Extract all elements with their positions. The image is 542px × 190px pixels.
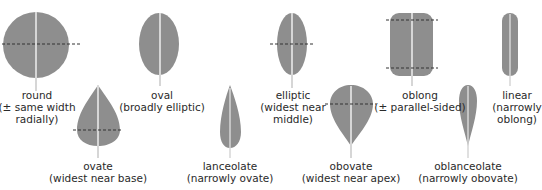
label-oblanceolate: oblanceolate (narrowly obovate)	[418, 160, 518, 184]
label-desc: (± parallel-sided)	[374, 101, 465, 113]
label-title: ovate	[49, 160, 147, 172]
linear-leaf-icon	[502, 13, 518, 86]
label-desc: (± same width	[0, 101, 76, 113]
label-linear: linear (narrowly oblong)	[492, 89, 542, 125]
label-title: oblanceolate	[418, 160, 518, 172]
oval-leaf-icon	[139, 13, 179, 86]
obovate-leaf-icon	[325, 85, 376, 158]
label-desc: (widest near base)	[49, 172, 147, 184]
label-desc: (broadly elliptic)	[119, 101, 205, 113]
label-desc: oblong)	[492, 113, 542, 125]
label-desc: (narrowly ovate)	[187, 172, 274, 184]
label-title: oval	[119, 89, 205, 101]
label-title: round	[0, 89, 76, 101]
label-desc: radially)	[0, 113, 76, 125]
label-desc: (widest near	[260, 101, 326, 113]
label-oblong: oblong (± parallel-sided)	[374, 89, 465, 113]
label-oval: oval (broadly elliptic)	[119, 89, 205, 113]
label-title: obovate	[302, 160, 401, 172]
label-desc: (narrowly	[492, 101, 542, 113]
label-elliptic: elliptic (widest near middle)	[260, 89, 326, 125]
label-lanceolate: lanceolate (narrowly ovate)	[187, 160, 274, 184]
label-title: lanceolate	[187, 160, 274, 172]
round-leaf-icon	[2, 12, 80, 91]
oblong-leaf-icon	[386, 13, 438, 86]
elliptic-leaf-icon	[270, 13, 315, 88]
ovate-leaf-icon	[73, 85, 122, 158]
lanceolate-leaf-icon	[220, 85, 241, 158]
label-desc: middle)	[260, 113, 326, 125]
label-title: elliptic	[260, 89, 326, 101]
label-title: oblong	[374, 89, 465, 101]
label-round: round (± same width radially)	[0, 89, 76, 125]
label-desc: (widest near apex)	[302, 172, 401, 184]
label-title: linear	[492, 89, 542, 101]
label-ovate: ovate (widest near base)	[49, 160, 147, 184]
label-obovate: obovate (widest near apex)	[302, 160, 401, 184]
label-desc: (narrowly obovate)	[418, 172, 518, 184]
